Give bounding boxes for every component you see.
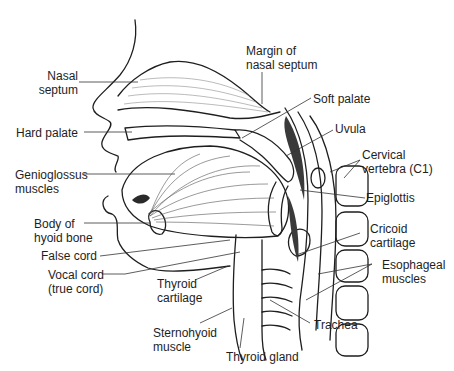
label-vocal-cord: Vocal cord (true cord)	[48, 268, 104, 296]
label-false-cord: False cord	[41, 249, 97, 263]
anatomy-diagram: Nasal septum Margin of nasal septum Soft…	[0, 0, 454, 371]
label-hard-palate: Hard palate	[16, 126, 78, 140]
label-body-of-hyoid-bone: Body of hyoid bone	[34, 217, 93, 245]
label-cervical-vertebra: Cervical vertebra (C1)	[362, 148, 433, 176]
tongue-outline	[122, 146, 289, 238]
label-genioglossus-muscles: Genioglossus muscles	[15, 168, 88, 196]
label-margin-of-nasal-septum: Margin of nasal septum	[246, 44, 317, 72]
label-cricoid-cartilage: Cricoid cartilage	[370, 222, 415, 250]
label-esophageal-muscles: Esophageal muscles	[382, 258, 445, 286]
chin-neck-profile	[103, 196, 230, 271]
label-trachea: Trachea	[314, 318, 358, 332]
label-uvula: Uvula	[335, 122, 366, 136]
hard-palate-shape	[125, 126, 240, 140]
label-thyroid-gland: Thyroid gland	[226, 350, 299, 364]
label-soft-palate: Soft palate	[313, 92, 370, 106]
label-thyroid-cartilage: Thyroid cartilage	[157, 277, 202, 305]
leader-lines	[79, 72, 372, 348]
larynx-back	[262, 240, 266, 360]
label-epiglottis: Epiglottis	[366, 191, 415, 205]
label-nasal-septum: Nasal septum	[26, 69, 78, 97]
label-sternohyoid-muscle: Sternohyoid muscle	[153, 326, 217, 354]
soft-palate-shape	[235, 130, 294, 182]
